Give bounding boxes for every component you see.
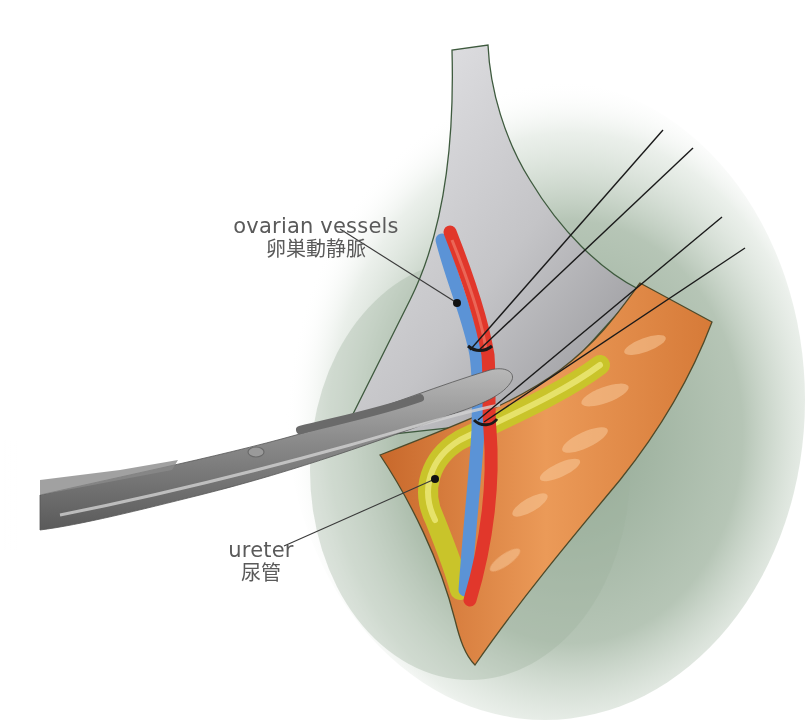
label-ureter-en: ureter <box>216 538 306 562</box>
label-ovarian-vessels-jp: 卵巣動静脈 <box>226 238 406 261</box>
scissor-screw <box>248 447 264 457</box>
surgical-illustration <box>0 0 806 725</box>
label-ureter-jp: 尿管 <box>216 562 306 585</box>
pointer-dot-ureter <box>431 475 439 483</box>
label-ovarian-vessels-en: ovarian vessels <box>226 214 406 238</box>
label-ovarian-vessels: ovarian vessels 卵巣動静脈 <box>226 214 406 261</box>
label-ureter: ureter 尿管 <box>216 538 306 585</box>
pointer-dot-ovarian <box>453 299 461 307</box>
